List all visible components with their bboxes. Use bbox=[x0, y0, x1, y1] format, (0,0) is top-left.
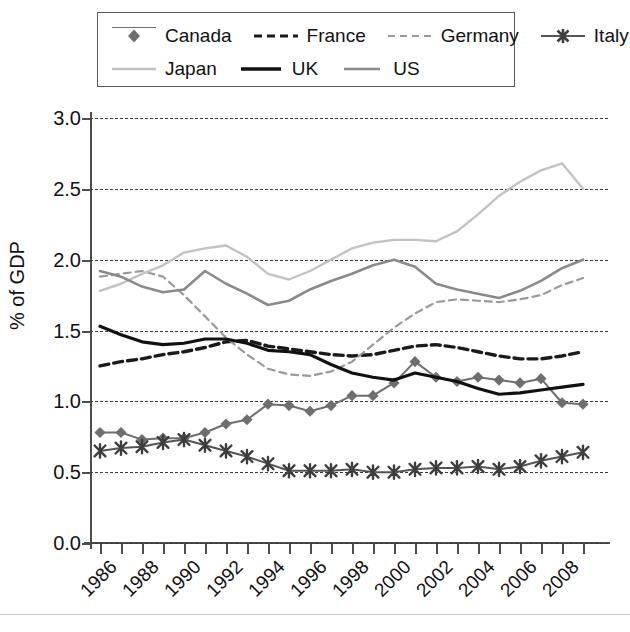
x-tick-1992 bbox=[226, 544, 228, 554]
x-tick-1987 bbox=[121, 544, 123, 554]
data-point-canada-1995 bbox=[283, 400, 294, 411]
y-tick-0.0 bbox=[82, 543, 91, 545]
y-tick-label-3.0: 3.0 bbox=[53, 107, 81, 130]
series-italy bbox=[95, 433, 589, 479]
light-solid-line-key-icon bbox=[110, 60, 158, 78]
x-tick-2008 bbox=[562, 544, 564, 554]
x-tick-2001 bbox=[415, 544, 417, 554]
x-tick-2000 bbox=[394, 544, 396, 554]
x-tick-2007 bbox=[541, 544, 543, 554]
x-tick-2004 bbox=[478, 544, 480, 554]
x-tick-2005 bbox=[499, 544, 501, 554]
dashed-line-key-icon bbox=[252, 27, 300, 45]
footer-divider bbox=[0, 614, 630, 615]
x-tick-label-2006: 2006 bbox=[489, 556, 541, 608]
x-tick-2002 bbox=[436, 544, 438, 554]
x-tick-1988 bbox=[142, 544, 144, 554]
data-point-canada-2005 bbox=[493, 374, 504, 385]
data-point-canada-1998 bbox=[346, 390, 357, 401]
series-japan bbox=[100, 163, 583, 291]
diamond-marker-line-key-icon bbox=[110, 27, 158, 45]
x-tick-1996 bbox=[310, 544, 312, 554]
x-tick-label-1986: 1986 bbox=[69, 556, 121, 608]
x-tick-1997 bbox=[331, 544, 333, 554]
legend-item-japan[interactable]: Japan bbox=[110, 58, 217, 80]
x-tick-label-2004: 2004 bbox=[447, 556, 499, 608]
legend-label-germany: Germany bbox=[441, 25, 519, 47]
y-tick-label-2.0: 2.0 bbox=[53, 248, 81, 271]
legend-row-1: Canada France Germany bbox=[110, 19, 504, 52]
legend-label-italy: Italy bbox=[594, 25, 629, 47]
legend-label-france: France bbox=[307, 25, 366, 47]
chart-figure: Canada France Germany bbox=[0, 0, 630, 632]
x-tick-1995 bbox=[289, 544, 291, 554]
x-tick-1994 bbox=[268, 544, 270, 554]
legend-item-italy[interactable]: Italy bbox=[539, 25, 629, 47]
legend-label-uk: UK bbox=[292, 58, 318, 80]
cross-marker-line-key-icon bbox=[539, 27, 587, 45]
chart-legend: Canada France Germany bbox=[97, 12, 515, 87]
series-line-germany bbox=[100, 271, 583, 376]
x-tick-label-1988: 1988 bbox=[111, 556, 163, 608]
x-tick-1991 bbox=[205, 544, 207, 554]
y-tick-label-1.5: 1.5 bbox=[53, 319, 81, 342]
x-tick-2006 bbox=[520, 544, 522, 554]
x-tick-label-1998: 1998 bbox=[321, 556, 373, 608]
data-point-canada-1987 bbox=[115, 427, 126, 438]
legend-item-us[interactable]: US bbox=[338, 58, 419, 80]
x-tick-1993 bbox=[247, 544, 249, 554]
data-point-canada-1997 bbox=[325, 400, 336, 411]
legend-item-canada[interactable]: Canada bbox=[110, 25, 232, 47]
series-lines bbox=[90, 118, 608, 543]
legend-label-japan: Japan bbox=[165, 58, 217, 80]
x-tick-label-2008: 2008 bbox=[531, 556, 583, 608]
x-tick-1986 bbox=[100, 544, 102, 554]
y-tick-label-1.0: 1.0 bbox=[53, 390, 81, 413]
series-germany bbox=[100, 271, 583, 376]
series-line-japan bbox=[100, 163, 583, 291]
plot-area: 0.00.51.01.52.02.53.0 bbox=[90, 118, 608, 543]
x-tick-label-1994: 1994 bbox=[237, 556, 289, 608]
series-line-us bbox=[100, 260, 583, 305]
x-tick-label-1990: 1990 bbox=[153, 556, 205, 608]
y-tick-label-0.0: 0.0 bbox=[53, 532, 81, 555]
bold-solid-line-key-icon bbox=[237, 60, 285, 78]
legend-label-canada: Canada bbox=[165, 25, 232, 47]
x-tick-2009 bbox=[583, 544, 585, 554]
x-tick-label-1996: 1996 bbox=[279, 556, 331, 608]
x-tick-1989 bbox=[163, 544, 165, 554]
data-point-italy-1994 bbox=[263, 457, 274, 470]
x-tick-1998 bbox=[352, 544, 354, 554]
data-point-canada-1986 bbox=[94, 427, 105, 438]
series-line-uk bbox=[100, 326, 583, 394]
data-point-canada-1996 bbox=[304, 406, 315, 417]
series-us bbox=[100, 260, 583, 305]
x-tick-1999 bbox=[373, 544, 375, 554]
y-tick-label-0.5: 0.5 bbox=[53, 461, 81, 484]
y-tick-label-2.5: 2.5 bbox=[53, 177, 81, 200]
x-tick-2003 bbox=[457, 544, 459, 554]
legend-row-2: Japan UK US bbox=[110, 52, 504, 85]
legend-item-france[interactable]: France bbox=[252, 25, 366, 47]
legend-item-uk[interactable]: UK bbox=[237, 58, 318, 80]
series-line-italy bbox=[100, 440, 583, 473]
data-point-canada-1992 bbox=[220, 418, 231, 429]
series-uk bbox=[100, 326, 583, 394]
legend-label-us: US bbox=[393, 58, 419, 80]
x-tick-label-2002: 2002 bbox=[405, 556, 457, 608]
gridline-0.0 bbox=[90, 543, 608, 544]
x-tick-label-1992: 1992 bbox=[195, 556, 247, 608]
series-line-canada bbox=[100, 362, 583, 440]
data-point-canada-1999 bbox=[367, 390, 378, 401]
x-tick-label-2000: 2000 bbox=[363, 556, 415, 608]
data-point-canada-2009 bbox=[577, 399, 588, 410]
x-tick-1990 bbox=[184, 544, 186, 554]
data-point-canada-2004 bbox=[472, 372, 483, 383]
legend-item-germany[interactable]: Germany bbox=[386, 25, 519, 47]
light-dashed-line-key-icon bbox=[386, 27, 434, 45]
data-point-canada-2006 bbox=[514, 377, 525, 388]
y-axis-title: % of GDP bbox=[6, 241, 29, 330]
gray-solid-line-key-icon bbox=[338, 60, 386, 78]
data-point-canada-1991 bbox=[199, 427, 210, 438]
